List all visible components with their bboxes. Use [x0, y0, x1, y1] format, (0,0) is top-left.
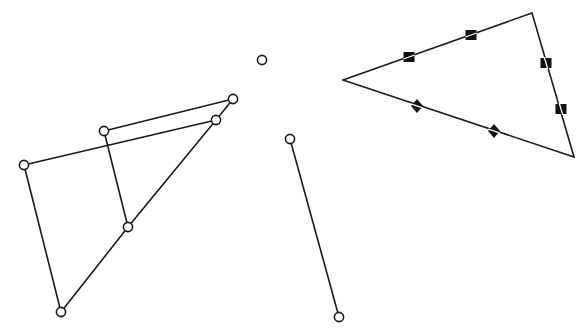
marked-triangle-side-RL: [343, 80, 574, 157]
isolated-point-point-P[interactable]: [257, 55, 266, 64]
quadrilateral-figure-segment-FE: [61, 227, 128, 312]
geometry-diagram: [0, 0, 586, 332]
quadrilateral-figure-point-F[interactable]: [56, 307, 65, 316]
line-segment-segment-S1S2: [290, 139, 339, 317]
quadrilateral-figure-segment-DF: [24, 165, 61, 312]
edges-layer: [24, 13, 574, 317]
quadrilateral-figure-segment-CA: [104, 99, 233, 131]
line-segment-point-S1[interactable]: [285, 134, 294, 143]
quadrilateral-figure-segment-EB: [128, 120, 216, 227]
marked-triangle-side-LT: [343, 13, 532, 80]
equal-length-square-marker-icon: [556, 103, 567, 115]
equal-length-square-marker-icon: [403, 52, 414, 62]
equal-length-diamond-marker-icon: [488, 124, 500, 138]
vertices-layer: [19, 55, 343, 321]
quadrilateral-figure-segment-CE: [104, 131, 128, 227]
quadrilateral-figure-point-D[interactable]: [19, 160, 28, 169]
quadrilateral-figure-point-C[interactable]: [99, 126, 108, 135]
quadrilateral-figure-point-E[interactable]: [123, 222, 132, 231]
line-segment-point-S2[interactable]: [334, 312, 343, 321]
equal-length-square-marker-icon: [465, 30, 476, 40]
quadrilateral-figure-point-B[interactable]: [211, 115, 220, 124]
marked-triangle-side-TR: [532, 13, 574, 157]
equal-length-square-marker-icon: [541, 57, 552, 69]
quadrilateral-figure-point-A[interactable]: [228, 94, 237, 103]
equal-length-diamond-marker-icon: [411, 99, 423, 113]
